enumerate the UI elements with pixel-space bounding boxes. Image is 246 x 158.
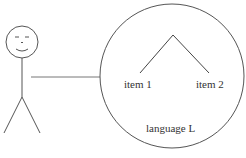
left-leg [4, 97, 22, 133]
item-1-label: item 1 [124, 78, 152, 90]
right-leg [22, 97, 40, 133]
item-2-label: item 2 [196, 78, 224, 90]
tree [140, 35, 209, 73]
nose [21, 42, 23, 43]
diagram-canvas: item 1 item 2 language L [0, 0, 246, 158]
tree-branch-right [173, 35, 209, 73]
tree-branch-left [140, 35, 173, 73]
stick-figure [4, 26, 40, 133]
language-label: language L [146, 122, 195, 134]
smile [16, 49, 28, 51]
head [6, 26, 38, 58]
